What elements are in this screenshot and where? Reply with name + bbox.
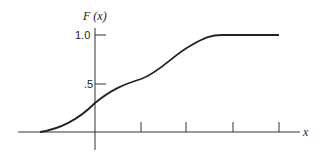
y-tick-label-half: .5	[84, 78, 93, 90]
cdf-curve	[40, 35, 279, 132]
y-tick-label-1: 1.0	[75, 29, 90, 41]
y-axis-label: F (x)	[82, 9, 107, 23]
x-axis-label: x	[302, 125, 309, 139]
cdf-chart: F (x) 1.0 .5 x	[0, 0, 326, 161]
